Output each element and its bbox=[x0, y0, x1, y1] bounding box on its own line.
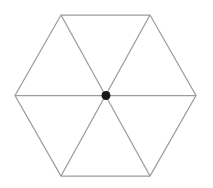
hexagon-figure-svg bbox=[0, 0, 213, 188]
hexagon-diagram bbox=[0, 0, 213, 188]
center-point-marker bbox=[102, 91, 111, 100]
